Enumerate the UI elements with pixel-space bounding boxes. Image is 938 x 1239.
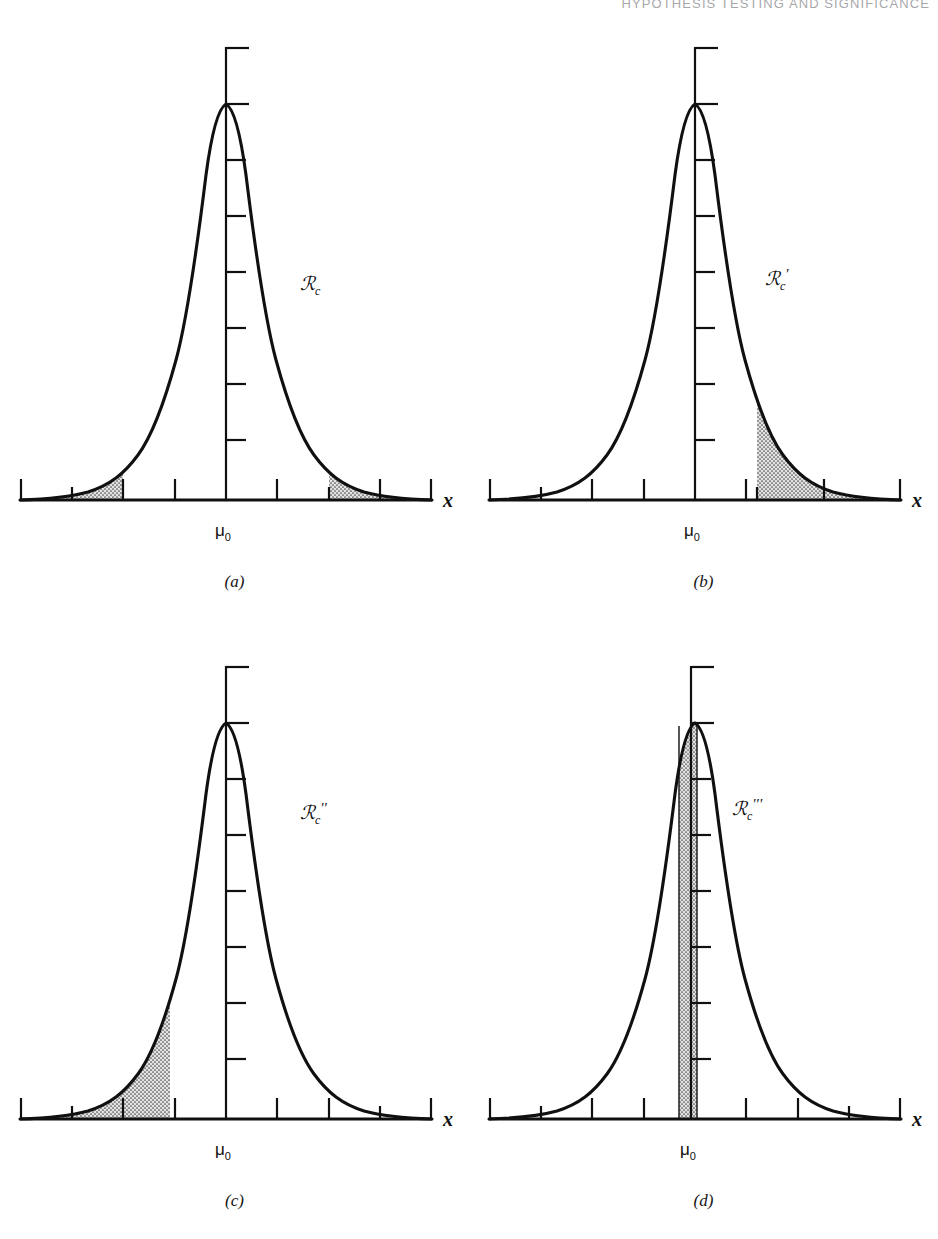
mu-zero-label: μ0 <box>680 1140 696 1162</box>
panel-d: x μ0 ℛc′′′ (d) <box>469 619 938 1239</box>
panel-caption-a: (a) <box>0 572 469 592</box>
panel-caption-c: (c) <box>0 1191 469 1211</box>
x-axis-label: x <box>442 1108 453 1130</box>
critical-region-label-c: ℛc′′ <box>300 800 328 827</box>
critical-region-label-a: ℛc <box>300 273 321 298</box>
critical-region-label-d: ℛc′′′ <box>732 796 763 823</box>
figure-four-panel-critical-regions: x μ0 ℛc (a) <box>0 0 938 1239</box>
x-axis-label: x <box>911 489 922 511</box>
panel-a: x μ0 ℛc (a) <box>0 0 469 620</box>
mu-zero-label: μ0 <box>215 1140 231 1162</box>
panel-b: x μ0 ℛc′ (b) <box>469 0 938 620</box>
shaded-left-tail <box>20 90 123 502</box>
panel-caption-d: (d) <box>469 1191 938 1211</box>
panel-caption-b: (b) <box>469 572 938 592</box>
x-axis-label: x <box>442 489 453 511</box>
mu-zero-label: μ0 <box>684 521 700 543</box>
critical-region-label-b: ℛc′ <box>765 266 789 293</box>
mu-zero-label: μ0 <box>215 521 231 543</box>
shaded-right-tail <box>757 90 901 502</box>
shaded-right-tail <box>329 90 432 502</box>
panel-c: x μ0 ℛc′′ (c) <box>0 619 469 1239</box>
x-axis-label: x <box>911 1108 922 1130</box>
